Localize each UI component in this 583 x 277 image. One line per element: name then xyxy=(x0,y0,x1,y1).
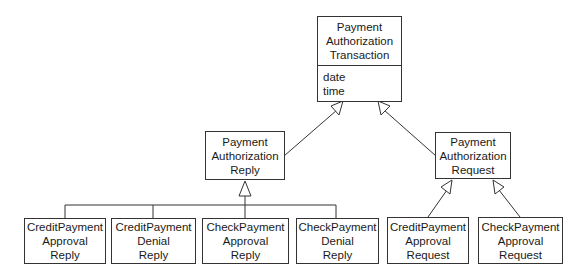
generalization-arrow-icon xyxy=(493,180,504,194)
attribute-date: date xyxy=(323,70,401,84)
class-creditpayment-approval-request: CreditPayment Approval Request xyxy=(387,217,469,264)
edge-check-request xyxy=(499,190,520,217)
class-name: CheckPayment Approval Reply xyxy=(203,219,288,263)
generalization-arrow-icon xyxy=(378,101,390,115)
edge-reply-to-transaction xyxy=(284,110,337,156)
uml-class-diagram: Payment Authorization Transaction date t… xyxy=(0,0,583,277)
class-creditpayment-denial-reply: CreditPayment Denial Reply xyxy=(111,218,196,264)
class-attributes: date time xyxy=(318,66,401,98)
class-checkpayment-approval-request: CheckPayment Approval Request xyxy=(478,217,563,264)
class-name: CreditPayment Denial Reply xyxy=(112,219,195,263)
class-checkpayment-denial-reply: CheckPayment Denial Reply xyxy=(296,218,379,264)
class-creditpayment-approval-reply: CreditPayment Approval Reply xyxy=(24,218,106,264)
class-payment-authorization-reply: Payment Authorization Reply xyxy=(205,131,285,180)
class-name: Payment Authorization Transaction xyxy=(318,17,401,66)
class-name: CheckPayment Denial Reply xyxy=(297,219,378,263)
generalization-arrow-icon xyxy=(441,180,452,194)
class-name: Payment Authorization Reply xyxy=(206,132,284,179)
class-name: CheckPayment Approval Request xyxy=(479,218,562,263)
class-name: CreditPayment Approval Reply xyxy=(25,219,105,263)
class-payment-authorization-transaction: Payment Authorization Transaction date t… xyxy=(317,16,402,102)
class-name: CreditPayment Approval Request xyxy=(388,218,468,263)
edge-credit-request xyxy=(428,190,447,217)
attribute-time: time xyxy=(323,84,401,98)
class-name: Payment Authorization Request xyxy=(436,133,510,178)
edge-request-to-transaction xyxy=(384,110,436,156)
generalization-arrow-icon xyxy=(239,181,251,196)
class-checkpayment-approval-reply: CheckPayment Approval Reply xyxy=(202,218,289,264)
class-payment-authorization-request: Payment Authorization Request xyxy=(435,132,511,179)
generalization-arrow-icon xyxy=(331,101,343,115)
